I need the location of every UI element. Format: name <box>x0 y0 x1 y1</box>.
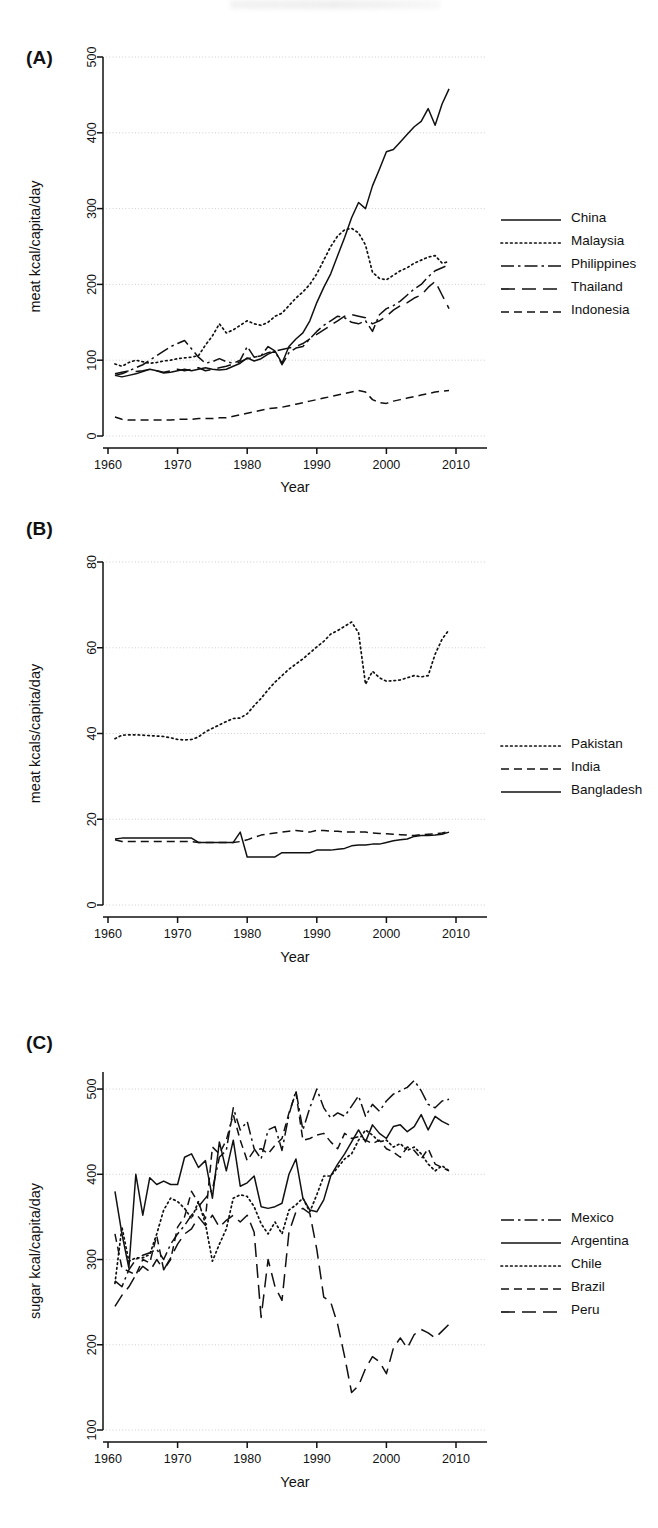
svg-text:1960: 1960 <box>94 458 122 472</box>
legend-item-malaysia: Malaysia <box>500 229 636 252</box>
legend-label: Peru <box>571 1303 600 1317</box>
svg-text:1990: 1990 <box>303 458 331 472</box>
legend-item-pakistan: Pakistan <box>500 732 642 755</box>
svg-text:meat kcals/capita/day: meat kcals/capita/day <box>27 663 43 803</box>
svg-text:200: 200 <box>85 1334 99 1355</box>
series-line-bangladesh <box>115 832 449 857</box>
svg-text:Year: Year <box>280 479 309 495</box>
series-line-thailand <box>115 281 449 373</box>
legend-label: Indonesia <box>571 303 630 317</box>
svg-text:2000: 2000 <box>372 458 400 472</box>
svg-text:60: 60 <box>85 641 99 655</box>
svg-text:300: 300 <box>85 1249 99 1270</box>
svg-text:200: 200 <box>85 274 99 295</box>
svg-text:sugar kcal/capita/day: sugar kcal/capita/day <box>27 1182 43 1319</box>
series-line-indonesia <box>115 391 449 421</box>
series-line-pakistan <box>115 622 449 740</box>
legend-item-indonesia: Indonesia <box>500 298 636 321</box>
panel-b-plot: 020406080196019701980199020002010Yearmea… <box>0 500 500 1010</box>
legend-item-philippines: Philippines <box>500 252 636 275</box>
svg-text:80: 80 <box>85 555 99 569</box>
panel-b: (B) 020406080196019701980199020002010Yea… <box>0 500 658 1010</box>
legend-label: Mexico <box>571 1211 614 1225</box>
legend-key-dashed-icon <box>500 304 562 316</box>
panel-c: (C) 100200300400500196019701980199020002… <box>0 1010 658 1528</box>
legend-key-long-dash-icon <box>500 281 562 293</box>
svg-text:40: 40 <box>85 727 99 741</box>
series-line-china <box>115 89 449 377</box>
panel-a-plot: 0100200300400500196019701980199020002010… <box>0 0 500 510</box>
svg-text:2010: 2010 <box>442 927 470 941</box>
svg-text:1970: 1970 <box>164 927 192 941</box>
svg-text:100: 100 <box>85 350 99 371</box>
series-line-malaysia <box>115 228 449 366</box>
svg-text:2010: 2010 <box>442 458 470 472</box>
legend-label: Pakistan <box>571 737 623 751</box>
legend-label: Philippines <box>571 257 636 271</box>
legend-key-solid-icon <box>500 1235 562 1247</box>
panel-b-legend: PakistanIndiaBangladesh <box>500 732 642 801</box>
legend-item-brazil: Brazil <box>500 1275 629 1298</box>
svg-text:400: 400 <box>85 1164 99 1185</box>
svg-text:1980: 1980 <box>233 1452 261 1466</box>
series-line-brazil <box>115 1092 449 1274</box>
legend-label: China <box>571 211 606 225</box>
legend-item-chile: Chile <box>500 1252 629 1275</box>
legend-label: Malaysia <box>571 234 624 248</box>
legend-item-mexico: Mexico <box>500 1206 629 1229</box>
svg-text:100: 100 <box>85 1420 99 1441</box>
legend-item-thailand: Thailand <box>500 275 636 298</box>
series-line-peru <box>115 1208 449 1392</box>
legend-key-dash-dot-icon <box>500 258 562 270</box>
svg-text:Year: Year <box>280 1474 309 1490</box>
legend-item-india: India <box>500 755 642 778</box>
svg-text:meat kcal/capita/day: meat kcal/capita/day <box>27 180 43 313</box>
series-line-philippines <box>115 265 449 376</box>
svg-text:500: 500 <box>85 47 99 68</box>
legend-key-dashed-icon <box>500 1281 562 1293</box>
series-line-chile <box>115 1130 449 1283</box>
svg-text:1990: 1990 <box>303 927 331 941</box>
svg-text:1960: 1960 <box>94 1452 122 1466</box>
panel-a: (A) 010020030040050019601970198019902000… <box>0 0 658 510</box>
legend-key-dashed-icon <box>500 761 562 773</box>
svg-text:1980: 1980 <box>233 458 261 472</box>
svg-text:20: 20 <box>85 812 99 826</box>
panel-a-legend: ChinaMalaysiaPhilippinesThailandIndonesi… <box>500 206 636 321</box>
series-line-mexico <box>115 1081 449 1287</box>
svg-text:1960: 1960 <box>94 927 122 941</box>
legend-label: Brazil <box>571 1280 605 1294</box>
svg-text:1970: 1970 <box>164 1452 192 1466</box>
svg-text:1990: 1990 <box>303 1452 331 1466</box>
svg-text:300: 300 <box>85 198 99 219</box>
legend-label: Chile <box>571 1257 602 1271</box>
legend-label: Bangladesh <box>571 783 642 797</box>
svg-text:0: 0 <box>85 432 99 439</box>
panel-c-plot: 100200300400500196019701980199020002010Y… <box>0 1010 500 1528</box>
svg-text:Year: Year <box>280 949 309 965</box>
legend-key-dotted-icon <box>500 1258 562 1270</box>
svg-text:2000: 2000 <box>372 1452 400 1466</box>
legend-key-dotted-icon <box>500 235 562 247</box>
legend-key-solid-icon <box>500 212 562 224</box>
legend-item-argentina: Argentina <box>500 1229 629 1252</box>
svg-text:2000: 2000 <box>372 927 400 941</box>
legend-label: Argentina <box>571 1234 629 1248</box>
svg-text:1970: 1970 <box>164 458 192 472</box>
svg-text:1980: 1980 <box>233 927 261 941</box>
legend-label: India <box>571 760 600 774</box>
svg-text:400: 400 <box>85 122 99 143</box>
legend-key-dotted-icon <box>500 738 562 750</box>
panel-c-legend: MexicoArgentinaChileBrazilPeru <box>500 1206 629 1321</box>
svg-text:0: 0 <box>85 901 99 908</box>
legend-item-peru: Peru <box>500 1298 629 1321</box>
legend-key-dash-dot-icon <box>500 1212 562 1224</box>
legend-key-long-dash-icon <box>500 1304 562 1316</box>
legend-label: Thailand <box>571 280 623 294</box>
legend-item-china: China <box>500 206 636 229</box>
legend-key-solid-icon <box>500 784 562 796</box>
svg-text:2010: 2010 <box>442 1452 470 1466</box>
svg-text:500: 500 <box>85 1079 99 1100</box>
legend-item-bangladesh: Bangladesh <box>500 778 642 801</box>
